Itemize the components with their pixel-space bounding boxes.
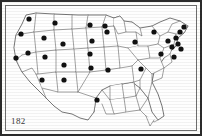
map-marker [165, 38, 170, 43]
map-marker [175, 41, 180, 46]
map-marker [105, 67, 110, 72]
map-marker [13, 55, 18, 60]
map-marker [138, 66, 143, 71]
map-marker [60, 41, 65, 46]
map-marker [178, 46, 183, 51]
map-marker [25, 50, 30, 55]
map-marker [171, 54, 176, 59]
map-marker [39, 77, 44, 82]
map-marker [26, 16, 31, 21]
map-marker [177, 29, 182, 34]
map-marker [104, 29, 109, 34]
map-marker [42, 54, 47, 59]
map-marker [88, 65, 93, 70]
map-marker [132, 39, 137, 44]
map-marker [158, 51, 163, 56]
map-marker [102, 23, 107, 28]
map-marker [94, 97, 99, 102]
map-marker [89, 38, 94, 43]
map-marker [61, 62, 66, 67]
map-marker [18, 31, 23, 36]
state-outlines [14, 13, 188, 126]
map-marker [181, 24, 186, 29]
figure-number-label: 182 [11, 116, 26, 126]
map-marker [87, 51, 92, 56]
map-marker [169, 44, 174, 49]
map-marker [87, 22, 92, 27]
map-marker [61, 77, 66, 82]
map-figure: 182 [0, 0, 202, 136]
map-marker [41, 35, 46, 40]
map-marker [173, 35, 178, 40]
map-marker [52, 20, 57, 25]
map-marker [151, 29, 156, 34]
us-map [2, 2, 202, 136]
